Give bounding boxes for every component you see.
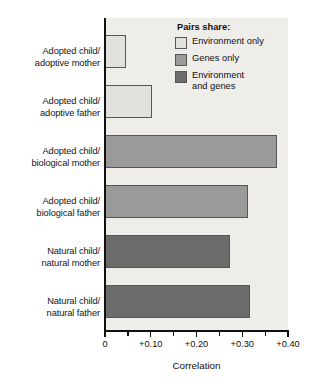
legend-swatch-genes-only: [175, 54, 187, 66]
legend-label-line1: Genes only: [192, 53, 239, 63]
x-tick-0-25: [219, 331, 220, 336]
x-tick-0-2: [196, 331, 197, 337]
bar-biological-mother: [105, 135, 277, 168]
category-label-line2: adoptive father: [0, 108, 100, 120]
category-label-line1: Adopted child/: [42, 46, 100, 56]
category-label-line1: Adopted child/: [42, 96, 100, 106]
x-axis-title: Correlation: [105, 360, 288, 371]
x-tick-label-0-2: +0.20: [185, 339, 209, 349]
category-label-line2: biological father: [0, 208, 100, 220]
category-label-natural-father: Natural child/ natural father: [0, 296, 100, 319]
bar-biological-father: [105, 185, 248, 218]
legend-label-environment-and-genes: Environment and genes: [192, 70, 244, 92]
bar-adoptive-mother: [105, 35, 126, 68]
correlation-bar-chart: Adopted child/ adoptive mother Adopted c…: [0, 0, 311, 386]
legend-label-line1: Environment: [192, 70, 244, 80]
x-tick-0-1: [150, 331, 151, 337]
legend-label-environment-only: Environment only: [192, 36, 264, 47]
legend-label-line1: Environment only: [192, 36, 264, 46]
x-tick-0-3: [242, 331, 243, 337]
x-tick-label-0-3: +0.30: [230, 339, 254, 349]
category-label-line2: natural mother: [0, 258, 100, 270]
legend-swatch-environment-only: [175, 37, 187, 49]
category-label-adoptive-father: Adopted child/ adoptive father: [0, 96, 100, 119]
bar-natural-father: [105, 285, 250, 318]
category-label-biological-mother: Adopted child/ biological mother: [0, 146, 100, 169]
legend-item-environment-and-genes: Environment and genes: [175, 70, 305, 92]
category-label-line1: Adopted child/: [42, 196, 100, 206]
category-label-biological-father: Adopted child/ biological father: [0, 196, 100, 219]
category-label-line1: Natural child/: [47, 246, 100, 256]
x-tick-0-15: [173, 331, 174, 336]
category-label-natural-mother: Natural child/ natural mother: [0, 246, 100, 269]
x-tick-label-0: 0: [102, 339, 107, 349]
category-label-line2: biological mother: [0, 158, 100, 170]
category-label-line2: adoptive mother: [0, 58, 100, 70]
category-label-line1: Natural child/: [47, 296, 100, 306]
x-tick-0-05: [127, 331, 128, 336]
legend-swatch-environment-and-genes: [175, 71, 187, 83]
legend: Pairs share: Environment only Genes only…: [175, 22, 305, 96]
legend-label-line2: and genes: [192, 81, 244, 92]
legend-item-environment-only: Environment only: [175, 36, 305, 49]
legend-item-genes-only: Genes only: [175, 53, 305, 66]
legend-label-genes-only: Genes only: [192, 53, 239, 64]
x-tick-0-4: [287, 331, 288, 337]
legend-title: Pairs share:: [177, 22, 305, 32]
bar-natural-mother: [105, 235, 230, 268]
x-tick-0-35: [265, 331, 266, 336]
x-tick-0: [104, 331, 105, 337]
category-axis-labels: Adopted child/ adoptive mother Adopted c…: [0, 18, 100, 330]
category-label-adoptive-mother: Adopted child/ adoptive mother: [0, 46, 100, 69]
x-tick-label-0-1: +0.10: [139, 339, 163, 349]
category-label-line1: Adopted child/: [42, 146, 100, 156]
bar-adoptive-father: [105, 85, 152, 118]
y-axis-line: [104, 18, 106, 331]
category-label-line2: natural father: [0, 308, 100, 320]
x-tick-label-0-4: +0.40: [276, 339, 300, 349]
